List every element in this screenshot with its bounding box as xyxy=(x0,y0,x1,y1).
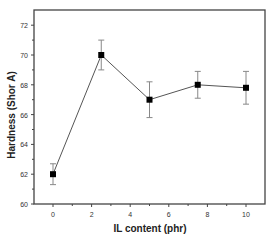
x-axis-label: IL content (phr) xyxy=(113,223,186,234)
y-tick-label: 70 xyxy=(20,52,28,59)
hardness-chart: 60626466687072 0246810 IL content (phr) … xyxy=(0,0,270,239)
x-tick-label: 0 xyxy=(51,211,55,218)
y-tick-label: 66 xyxy=(20,112,28,119)
y-tick-label: 64 xyxy=(20,141,28,148)
y-tick-label: 62 xyxy=(20,171,28,178)
x-tick-label: 4 xyxy=(128,211,132,218)
y-tick-label: 72 xyxy=(20,22,28,29)
data-series xyxy=(50,40,249,185)
square-marker xyxy=(147,97,153,103)
x-axis-ticks: 0246810 xyxy=(51,204,250,218)
square-marker xyxy=(243,85,249,91)
x-tick-label: 2 xyxy=(90,211,94,218)
x-tick-label: 6 xyxy=(167,211,171,218)
y-tick-label: 68 xyxy=(20,82,28,89)
chart-svg: 60626466687072 0246810 IL content (phr) … xyxy=(0,0,270,239)
y-axis-ticks: 60626466687072 xyxy=(20,22,34,208)
square-marker xyxy=(50,171,56,177)
x-tick-label: 8 xyxy=(205,211,209,218)
x-tick-label: 10 xyxy=(242,211,250,218)
y-tick-label: 60 xyxy=(20,201,28,208)
square-marker xyxy=(195,82,201,88)
y-axis-label: Hardness (Shor A) xyxy=(6,71,17,158)
square-marker xyxy=(98,52,104,58)
